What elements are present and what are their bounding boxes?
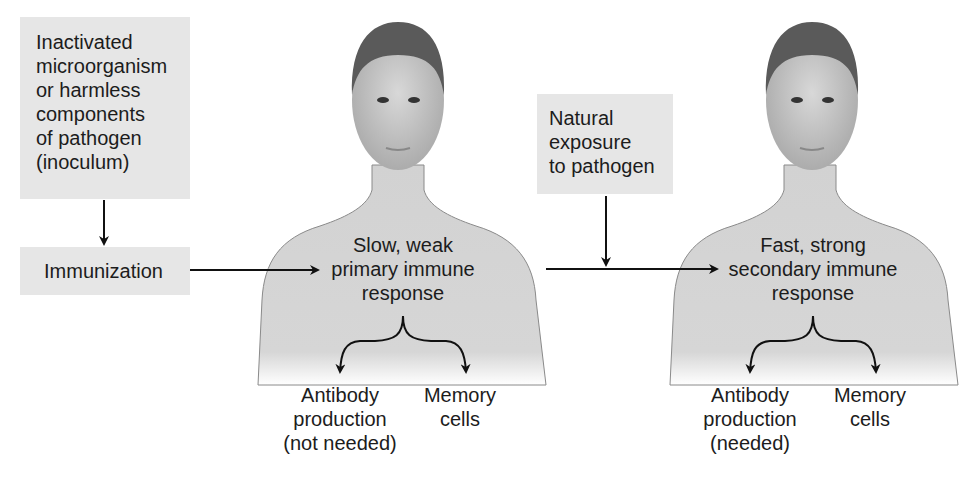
outcome-line: cells	[825, 407, 915, 431]
response-line: Slow, weak	[303, 233, 503, 257]
response-line: response	[303, 281, 503, 305]
outcome-line: (not needed)	[280, 431, 400, 455]
secondary-outcome-antibody: Antibody production (needed)	[690, 383, 810, 455]
primary-outcome-antibody: Antibody production (not needed)	[280, 383, 400, 455]
outcome-line: (needed)	[690, 431, 810, 455]
outcome-line: Antibody	[280, 383, 400, 407]
outcome-line: production	[690, 407, 810, 431]
secondary-response-label: Fast, strong secondary immune response	[713, 233, 913, 305]
outcome-line: Memory	[415, 383, 505, 407]
branch-arrow-icon	[340, 316, 466, 372]
secondary-outcome-memory: Memory cells	[825, 383, 915, 431]
response-line: secondary immune	[713, 257, 913, 281]
branch-arrow-icon	[750, 316, 876, 372]
outcome-line: Memory	[825, 383, 915, 407]
primary-outcome-memory: Memory cells	[415, 383, 505, 431]
primary-response-label: Slow, weak primary immune response	[303, 233, 503, 305]
response-line: Fast, strong	[713, 233, 913, 257]
outcome-line: cells	[415, 407, 505, 431]
outcome-line: production	[280, 407, 400, 431]
response-line: response	[713, 281, 913, 305]
outcome-line: Antibody	[690, 383, 810, 407]
response-line: primary immune	[303, 257, 503, 281]
